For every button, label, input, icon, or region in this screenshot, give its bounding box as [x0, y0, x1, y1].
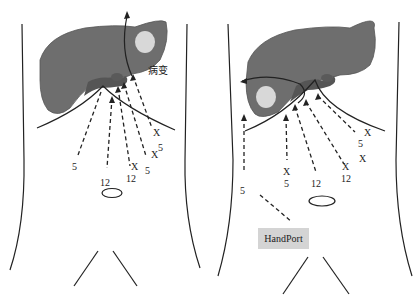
surgical-port-diagram: 病变 5 12 X 12 5 X 5 X 5: [0, 0, 418, 302]
right-port-label: X: [364, 127, 372, 138]
left-hilum-structure: [111, 73, 123, 81]
right-port-label: 12: [341, 173, 351, 184]
left-body-outline-right: [185, 24, 200, 268]
right-arrowhead-icon: [303, 99, 309, 106]
right-trocar-path-5: [318, 96, 355, 132]
right-leg-line-right: [323, 257, 349, 294]
left-arrowhead-icon: [115, 86, 121, 93]
left-panel: 病变 5 12 X 12 5 X 5 X 5: [10, 11, 200, 286]
left-port-label: X: [153, 127, 161, 138]
right-trocar-path-3: [295, 107, 316, 172]
left-arrowhead-icon: [124, 11, 130, 19]
left-trocar-path-2: [107, 98, 112, 168]
handport-label: HandPort: [264, 233, 303, 244]
right-arrowhead-icon: [241, 114, 247, 121]
left-trocar-path-5: [133, 76, 152, 128]
right-panel: 5 X 5 12 X 12 X 5 X HandPort: [218, 21, 412, 294]
right-arrowhead-icon: [292, 104, 298, 111]
right-trocar-path-2: [286, 117, 287, 160]
right-leg-line-left: [283, 257, 308, 294]
left-lesion: [135, 31, 155, 53]
right-port-label: X: [359, 153, 367, 164]
right-port-label: 5: [284, 178, 289, 189]
left-arrowhead-icon: [109, 96, 115, 103]
left-body-outline-left: [10, 24, 24, 270]
right-port-label: 12: [311, 178, 321, 189]
right-hilum-structure: [321, 74, 333, 82]
left-port-label: 12: [126, 173, 136, 184]
right-lesion: [256, 86, 276, 108]
left-lesion-label: 病变: [148, 64, 168, 76]
right-port-label: 5: [358, 138, 363, 149]
right-body-outline-left: [218, 24, 233, 276]
right-arrowhead-icon: [315, 93, 321, 100]
right-port-label: 5: [240, 185, 245, 196]
left-umbilicus: [102, 189, 122, 198]
left-port-label: 5: [158, 142, 163, 153]
left-leg-line-left: [74, 251, 98, 286]
right-body-outline-right: [396, 22, 412, 276]
right-arrowhead-icon: [240, 78, 247, 84]
left-port-label: 5: [72, 161, 77, 172]
left-trocar-path-1: [78, 92, 101, 155]
right-trocar-path-4: [306, 102, 344, 164]
right-umbilicus: [309, 196, 335, 206]
left-leg-line-right: [113, 251, 137, 286]
left-port-label: 5: [145, 165, 150, 176]
right-handport-path: [260, 195, 292, 222]
right-port-label: X: [283, 166, 291, 177]
left-port-label: X: [131, 161, 139, 172]
right-port-label: X: [342, 161, 350, 172]
left-port-label: 12: [100, 177, 110, 188]
right-arrowhead-icon: [283, 114, 289, 121]
